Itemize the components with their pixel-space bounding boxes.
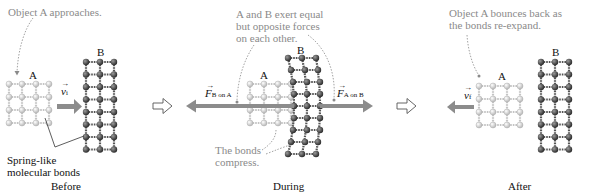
velocity-arrow-right-icon bbox=[57, 99, 82, 114]
bonds-label: Spring-likemolecular bonds bbox=[7, 154, 80, 178]
before-caption: Before bbox=[51, 180, 81, 192]
annotation-pointer bbox=[467, 35, 478, 74]
transition-arrow-icon bbox=[153, 99, 172, 114]
object-b-label: B bbox=[552, 46, 559, 58]
before-annotation: Object A approaches. bbox=[8, 6, 102, 18]
during-caption: During bbox=[273, 180, 304, 192]
velocity-arrow-left-icon bbox=[447, 101, 474, 114]
object-b-label: B bbox=[97, 46, 104, 58]
object-a-lattice bbox=[476, 83, 523, 128]
after-caption: After bbox=[508, 180, 531, 192]
object-b-lattice bbox=[538, 59, 572, 153]
during-annotation: A and B exert equalbut opposite forceson… bbox=[236, 8, 323, 44]
annotation-pointer-right bbox=[308, 35, 334, 98]
velocity-initial-label: →vi bbox=[61, 85, 68, 97]
force-b-on-a-label: →FB on A bbox=[205, 87, 232, 99]
after-annotation: Object A bounces back asthe bonds re-exp… bbox=[449, 7, 562, 31]
velocity-final-label: →vf bbox=[464, 89, 471, 101]
object-a-label: A bbox=[29, 69, 37, 81]
compress-pointer-a bbox=[262, 130, 276, 150]
force-a-on-b-label: →FA on B bbox=[337, 87, 364, 99]
force-a-on-b-arrow-icon bbox=[320, 100, 373, 113]
transition-arrow-icon bbox=[397, 99, 416, 114]
annotation-pointer-left bbox=[237, 45, 254, 100]
annotation-pointer bbox=[17, 18, 33, 73]
object-b-label: B bbox=[297, 44, 304, 56]
object-a-label: A bbox=[498, 70, 506, 82]
bonds-compress-annotation: The bondscompress. bbox=[215, 144, 261, 168]
object-b-lattice bbox=[83, 59, 117, 153]
object-a-label: A bbox=[260, 69, 268, 81]
object-a-lattice bbox=[247, 81, 294, 126]
